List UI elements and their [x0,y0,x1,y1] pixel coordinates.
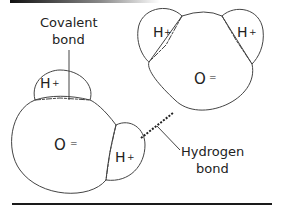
water-hydrogen-bond-diagram: H + H + O = H + H + O = Hydrogen bond Co… [0,0,282,207]
charge-label: + [249,27,257,37]
charge-label: + [164,27,172,37]
atom-label: O [54,136,66,154]
charge-label: + [52,78,60,88]
molecule-left [12,70,145,193]
covalent-bond-label-line2: bond [52,32,85,47]
hydrogen-bond-label-line1: Hydrogen [181,144,244,159]
charge-label: = [209,72,217,82]
top-rule [10,0,160,3]
atom-label: H [153,24,164,40]
charge-label: + [127,152,135,162]
atom-label: H [237,24,248,40]
atom-label: H [115,149,126,165]
bottom-rule [12,203,272,205]
atom-label: H [40,75,51,91]
hydrogen-bond-leader [157,126,180,150]
hydrogen-bond-label-line2: bond [196,161,229,176]
hydrogen-bond-line [141,113,173,138]
atom-label: O [194,70,206,88]
covalent-bond-label-line1: Covalent [40,15,98,30]
charge-label: = [70,138,78,148]
